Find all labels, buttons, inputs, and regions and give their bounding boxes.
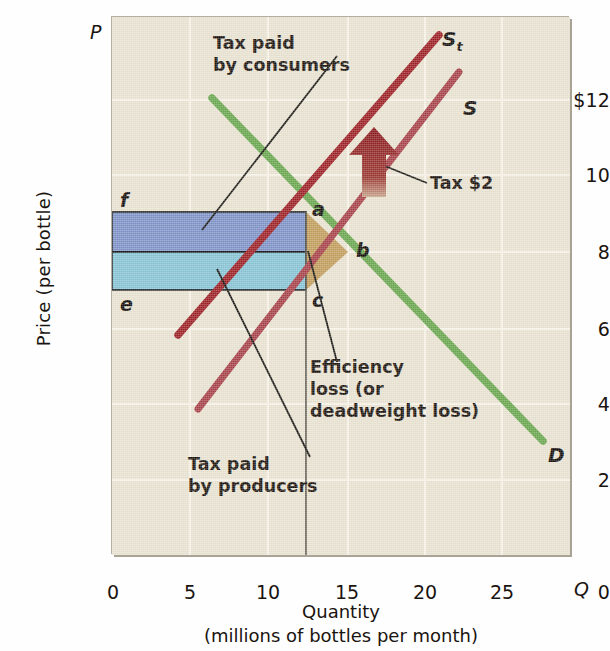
x-axis-title-line2: (millions of bottles per month) — [112, 624, 570, 648]
y-axis-name: P — [90, 21, 101, 43]
efficiency-loss-line1: Efficiency — [310, 357, 479, 379]
point-label-b: b — [356, 239, 370, 261]
tax-producers-line2: by producers — [188, 476, 317, 498]
tax-paid-by-producers-region — [112, 252, 306, 290]
curve-label-demand: D — [548, 443, 565, 467]
efficiency-loss-line2: loss (or — [310, 379, 479, 401]
point-label-e: e — [120, 293, 133, 315]
tax-producers-line1: Tax paid — [188, 454, 317, 476]
tax-consumers-line1: Tax paid — [213, 33, 350, 55]
point-label-f: f — [120, 189, 128, 211]
y-axis-title: Price (per bottle) — [33, 179, 54, 359]
annotation-tax-paid-by-consumers: Tax paid by consumers — [213, 33, 350, 77]
point-label-c: c — [312, 289, 323, 311]
curve-label-supply-tax-text: S — [442, 27, 456, 51]
x-axis-title-line1: Quantity — [112, 600, 570, 624]
curve-label-supply-tax: St — [442, 27, 463, 54]
plot-svg — [112, 17, 570, 555]
tax-consumers-line2: by consumers — [213, 55, 350, 77]
plot-area: Tax paid by consumers Tax paid by produc… — [112, 17, 570, 555]
curve-label-supply-tax-subscript: t — [456, 39, 462, 54]
efficiency-loss-line3: deadweight loss) — [310, 401, 479, 423]
annotation-efficiency-loss: Efficiency loss (or deadweight loss) — [310, 357, 479, 423]
x-axis-name: Q — [574, 578, 589, 600]
curve-label-supply: S — [463, 96, 477, 120]
annotation-tax-amount: Tax $2 — [430, 173, 493, 193]
annotation-tax-paid-by-producers: Tax paid by producers — [188, 454, 317, 498]
point-label-a: a — [312, 198, 325, 220]
figure-root: $12 10 8 6 4 2 0 0 5 10 15 20 25 P Q Pri… — [0, 0, 610, 651]
x-axis-title: Quantity (millions of bottles per month) — [112, 600, 570, 648]
